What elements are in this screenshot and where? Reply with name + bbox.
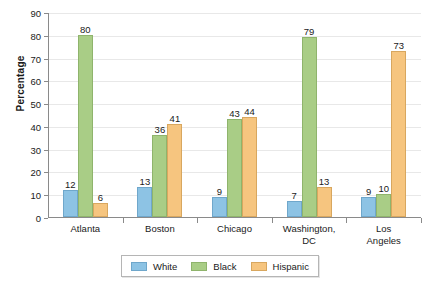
y-tick-mark [44, 195, 48, 196]
legend-label-hispanic: Hispanic [273, 261, 309, 272]
bar-black[interactable]: 43 [227, 119, 242, 217]
legend-swatch-white-icon [131, 262, 147, 271]
x-tick-mark [346, 218, 347, 223]
bar-white[interactable]: 12 [63, 190, 78, 217]
x-category-label: Los Angeles [365, 223, 402, 247]
x-tick-mark [421, 218, 422, 223]
x-tick-mark [197, 218, 198, 223]
x-category-label: Boston [145, 223, 175, 235]
bar-group-bars: 77913 [287, 12, 332, 217]
bar-value-label: 10 [378, 183, 389, 194]
bar-hispanic[interactable]: 44 [242, 117, 257, 217]
y-tick-mark [44, 104, 48, 105]
y-tick-mark [44, 218, 48, 219]
legend-label-black: Black [213, 261, 236, 272]
y-tick-label: 80 [30, 30, 41, 41]
bar-value-label: 80 [80, 24, 91, 35]
y-tick-mark [44, 172, 48, 173]
bar-black[interactable]: 79 [302, 37, 317, 217]
x-axis-line [48, 217, 421, 218]
x-tick-mark [123, 218, 124, 223]
y-tick-mark [44, 59, 48, 60]
legend-swatch-hispanic-icon [251, 262, 267, 271]
bar-white[interactable]: 9 [361, 197, 376, 218]
legend-item-black[interactable]: Black [191, 261, 236, 272]
bar-group-bars: 12806 [63, 12, 108, 217]
bar-value-label: 44 [244, 106, 255, 117]
legend-swatch-black-icon [191, 262, 207, 271]
legend-item-white[interactable]: White [131, 261, 177, 272]
bar-chart: Percentage 0102030405060708090 128061336… [0, 0, 432, 290]
bar-black[interactable]: 80 [78, 35, 93, 217]
bar-white[interactable]: 13 [137, 187, 152, 217]
bar-value-label: 7 [291, 190, 296, 201]
y-tick-label: 20 [30, 167, 41, 178]
y-tick-mark [44, 36, 48, 37]
y-tick-mark [44, 150, 48, 151]
y-tick-label: 60 [30, 76, 41, 87]
bar-hispanic[interactable]: 6 [93, 203, 108, 217]
bar-value-label: 43 [229, 108, 240, 119]
y-tick-label: 40 [30, 121, 41, 132]
bar-value-label: 9 [366, 186, 371, 197]
bar-hispanic[interactable]: 73 [391, 51, 406, 217]
x-category-label: Chicago [217, 223, 252, 235]
chart-legend: White Black Hispanic [121, 255, 319, 277]
y-tick-label: 90 [30, 8, 41, 19]
bar-white[interactable]: 7 [287, 201, 302, 217]
y-tick-label: 0 [36, 213, 41, 224]
bar-value-label: 73 [393, 40, 404, 51]
y-tick-label: 50 [30, 99, 41, 110]
bar-value-label: 9 [217, 186, 222, 197]
x-category-label: Atlanta [71, 223, 101, 235]
bar-value-label: 12 [65, 179, 76, 190]
bar-value-label: 6 [98, 192, 103, 203]
legend-item-hispanic[interactable]: Hispanic [251, 261, 309, 272]
y-tick-label: 70 [30, 53, 41, 64]
bar-value-label: 79 [304, 26, 315, 37]
y-tick-mark [44, 13, 48, 14]
bar-black[interactable]: 36 [152, 135, 167, 217]
plot-area: 0102030405060708090 12806133641943447791… [48, 13, 421, 218]
y-tick-mark [44, 127, 48, 128]
bar-value-label: 13 [140, 176, 151, 187]
bar-value-label: 41 [170, 113, 181, 124]
y-axis-title: Percentage [15, 34, 26, 134]
bar-white[interactable]: 9 [212, 197, 227, 218]
bar-value-label: 13 [319, 176, 330, 187]
bar-group-bars: 94344 [212, 12, 257, 217]
bar-value-label: 36 [155, 124, 166, 135]
y-tick-label: 30 [30, 144, 41, 155]
legend-label-white: White [153, 261, 177, 272]
x-tick-mark [272, 218, 273, 223]
bar-hispanic[interactable]: 13 [317, 187, 332, 217]
y-tick-mark [44, 81, 48, 82]
x-category-label: Washington, DC [283, 223, 335, 247]
y-axis-line [48, 13, 49, 218]
bar-group-bars: 133641 [137, 12, 182, 217]
bar-group-bars: 91073 [361, 12, 406, 217]
bar-black[interactable]: 10 [376, 194, 391, 217]
bar-hispanic[interactable]: 41 [167, 124, 182, 217]
y-tick-label: 10 [30, 190, 41, 201]
